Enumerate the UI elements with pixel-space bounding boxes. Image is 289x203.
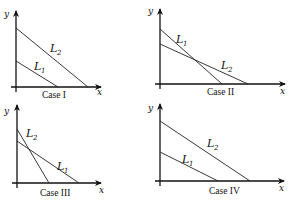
y-axis-label: y xyxy=(3,106,10,116)
line-label-subscript: 1 xyxy=(189,160,193,168)
case-caption: Case III xyxy=(40,188,70,198)
line-L2 xyxy=(16,28,88,87)
y-axis-label: y xyxy=(3,9,10,19)
x-axis-label: x xyxy=(279,183,284,193)
panel-4: L2L1yxCase IV xyxy=(147,103,284,196)
line-label-subscript: 1 xyxy=(41,67,45,75)
line-label-subscript: 2 xyxy=(56,49,62,57)
y-axis-label: y xyxy=(147,6,154,16)
case-caption: Case IV xyxy=(209,186,240,196)
panel-3: L2L1yxCase III xyxy=(3,105,104,198)
line-label-subscript: 2 xyxy=(227,66,233,74)
line-label-subscript: 1 xyxy=(183,40,187,48)
x-axis-label: x xyxy=(97,87,102,97)
panel-1: L2L1yxCase I xyxy=(3,9,102,100)
y-axis-label: y xyxy=(147,103,154,113)
line-label-subscript: 2 xyxy=(32,134,38,142)
line-L1 xyxy=(17,141,79,183)
line-label-subscript: 2 xyxy=(213,144,219,152)
case-caption: Case I xyxy=(42,90,66,100)
case-caption: Case II xyxy=(207,87,234,97)
line-label-subscript: 1 xyxy=(64,167,68,175)
x-axis-label: x xyxy=(280,86,285,96)
panel-2: L1L2yxCase II xyxy=(147,6,285,97)
line-L2 xyxy=(160,121,250,181)
four-case-line-diagram: L2L1yxCase IL1L2yxCase IIL2L1yxCase IIIL… xyxy=(0,0,289,203)
line-L1 xyxy=(160,29,222,84)
x-axis-label: x xyxy=(99,185,104,195)
line-L2 xyxy=(160,44,248,84)
